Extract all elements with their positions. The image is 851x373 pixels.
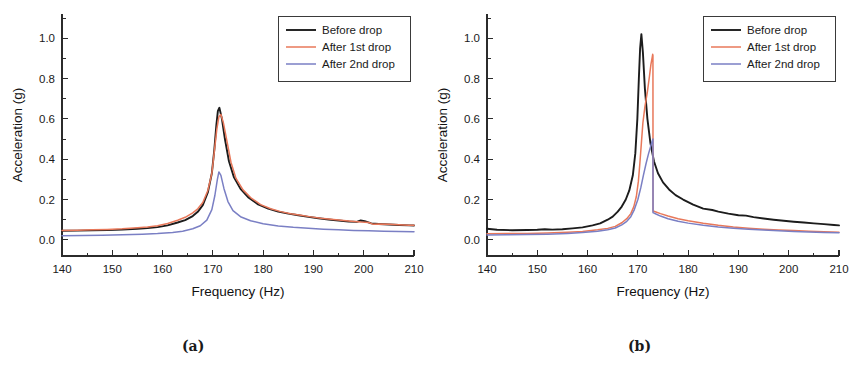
x-axis-title: Frequency (Hz) [191, 284, 284, 299]
y-tick-label: 1.0 [39, 32, 55, 44]
y-tick-label: 0.6 [464, 113, 480, 125]
frequency-response-chart-b: 1401501601701801902002100.00.20.40.60.81… [425, 0, 851, 320]
subfigure-caption-b: (b) [628, 338, 651, 354]
x-axis-title: Frequency (Hz) [616, 284, 709, 299]
series-line-1 [62, 114, 414, 230]
x-tick-label: 170 [628, 263, 647, 275]
x-tick-label: 140 [52, 263, 71, 275]
y-tick-label: 0.0 [464, 234, 480, 246]
y-tick-label: 0.8 [39, 73, 55, 85]
x-tick-label: 160 [578, 263, 597, 275]
x-tick-label: 150 [103, 263, 122, 275]
y-tick-label: 1.0 [464, 32, 480, 44]
x-tick-label: 180 [679, 263, 698, 275]
legend-label-0: Before drop [322, 24, 382, 36]
y-tick-label: 0.2 [464, 194, 480, 206]
series-line-0 [62, 108, 414, 231]
x-tick-label: 180 [254, 263, 273, 275]
frequency-response-chart-a: 1401501601701801902002100.00.20.40.60.81… [0, 0, 426, 320]
x-tick-label: 210 [829, 263, 848, 275]
x-tick-label: 160 [153, 263, 172, 275]
x-tick-label: 210 [404, 263, 423, 275]
caption-row: (a) (b) [0, 330, 851, 370]
legend-label-1: After 1st drop [747, 41, 816, 53]
legend: Before dropAfter 1st dropAfter 2nd drop [703, 16, 835, 81]
legend-label-2: After 2nd drop [747, 58, 820, 70]
legend-label-2: After 2nd drop [322, 58, 395, 70]
x-tick-label: 140 [477, 263, 496, 275]
y-tick-label: 0.2 [39, 194, 55, 206]
chart-panel-a: 1401501601701801902002100.00.20.40.60.81… [0, 0, 426, 320]
legend-label-0: Before drop [747, 24, 807, 36]
y-axis-title: Acceleration (g) [10, 88, 25, 183]
y-tick-label: 0.4 [39, 153, 56, 165]
x-tick-label: 200 [354, 263, 373, 275]
x-tick-label: 190 [729, 263, 748, 275]
x-tick-label: 170 [203, 263, 222, 275]
y-tick-label: 0.4 [464, 153, 481, 165]
y-tick-label: 0.6 [39, 113, 55, 125]
figure-container: 1401501601701801902002100.00.20.40.60.81… [0, 0, 851, 373]
y-tick-label: 0.0 [39, 234, 55, 246]
x-tick-label: 200 [779, 263, 798, 275]
legend-label-1: After 1st drop [322, 41, 391, 53]
legend: Before dropAfter 1st dropAfter 2nd drop [278, 16, 410, 81]
y-tick-label: 0.8 [464, 73, 480, 85]
plot-area: 1401501601701801902002100.00.20.40.60.81… [435, 14, 849, 299]
chart-panel-b: 1401501601701801902002100.00.20.40.60.81… [425, 0, 851, 320]
plot-area: 1401501601701801902002100.00.20.40.60.81… [10, 14, 424, 299]
y-axis-title: Acceleration (g) [435, 88, 450, 183]
x-tick-label: 190 [304, 263, 323, 275]
x-tick-label: 150 [528, 263, 547, 275]
subfigure-caption-a: (a) [182, 338, 204, 354]
